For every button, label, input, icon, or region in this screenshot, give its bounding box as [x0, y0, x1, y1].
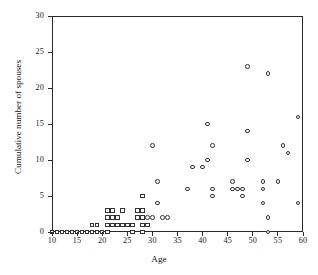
- x-axis-title: Age: [0, 254, 318, 264]
- y-axis-tick: [48, 232, 52, 233]
- x-axis-tick-label: 30: [139, 236, 165, 245]
- x-axis-tick-label: 60: [290, 236, 316, 245]
- y-axis-title: Cumulative number of spouses: [13, 7, 23, 227]
- y-axis-tick: [48, 160, 52, 161]
- y-axis-tick: [48, 196, 52, 197]
- x-axis-tick-label: 25: [114, 236, 140, 245]
- x-axis-tick-label: 35: [165, 236, 191, 245]
- y-axis-tick: [48, 124, 52, 125]
- x-axis-tick-label: 45: [215, 236, 241, 245]
- plot-area: [52, 16, 303, 232]
- y-axis-tick: [48, 88, 52, 89]
- x-axis-tick-label: 10: [39, 236, 65, 245]
- y-axis-tick: [48, 16, 52, 17]
- x-axis-tick-label: 55: [265, 236, 291, 245]
- x-axis-tick-label: 20: [89, 236, 115, 245]
- x-axis-tick-label: 15: [64, 236, 90, 245]
- x-axis-tick-label: 40: [190, 236, 216, 245]
- scatter-plot-figure: 1015202530354045505560051015202530 Age C…: [0, 0, 318, 275]
- y-axis-tick-label: 0: [18, 227, 44, 236]
- y-axis-tick: [48, 52, 52, 53]
- x-axis-tick-label: 50: [240, 236, 266, 245]
